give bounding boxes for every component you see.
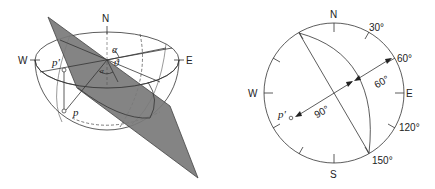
arrowhead-gc-outer [354,75,361,81]
label-150: 150° [372,155,393,166]
label-60-rim: 60° [397,53,412,64]
label-n-left: N [102,13,109,24]
arrowhead-gc-inner [346,81,353,87]
arrowhead-rim [385,58,392,64]
pole-point-p-prime [289,116,293,120]
point-p [62,109,66,113]
label-120: 120° [399,122,420,133]
tick-240 [273,124,280,128]
label-n-right: N [330,9,337,20]
stereonet-figure: N S W E 30° 60° 120° 150° 60° 90° p' [248,9,420,180]
tick-30 [365,32,369,39]
label-theta: ϑ [114,57,120,68]
point-p-prime [62,68,66,72]
tick-210 [299,147,303,154]
label-alpha: α [112,44,118,55]
arrowhead-pole [295,111,302,117]
label-p: p [72,106,79,118]
label-small-alpha: α [100,67,104,75]
hemisphere-figure: N W E p' p α ϑ α [18,13,198,178]
inclined-plane [48,17,198,178]
label-w-right: W [248,88,258,99]
label-p-prime-right: p' [277,108,287,120]
label-60-arc: 60° [372,73,391,90]
diagram-canvas: N W E p' p α ϑ α [0,0,435,189]
label-90-arc: 90° [312,103,331,120]
label-w-left: W [18,55,28,66]
label-s-right: S [330,169,337,180]
tick-150 [365,147,369,154]
label-e-left: E [186,55,193,66]
label-30: 30° [369,22,384,33]
tick-120 [388,124,395,128]
label-e-right: E [406,88,413,99]
tick-300 [273,58,280,62]
label-p-prime-left: p' [51,56,61,68]
